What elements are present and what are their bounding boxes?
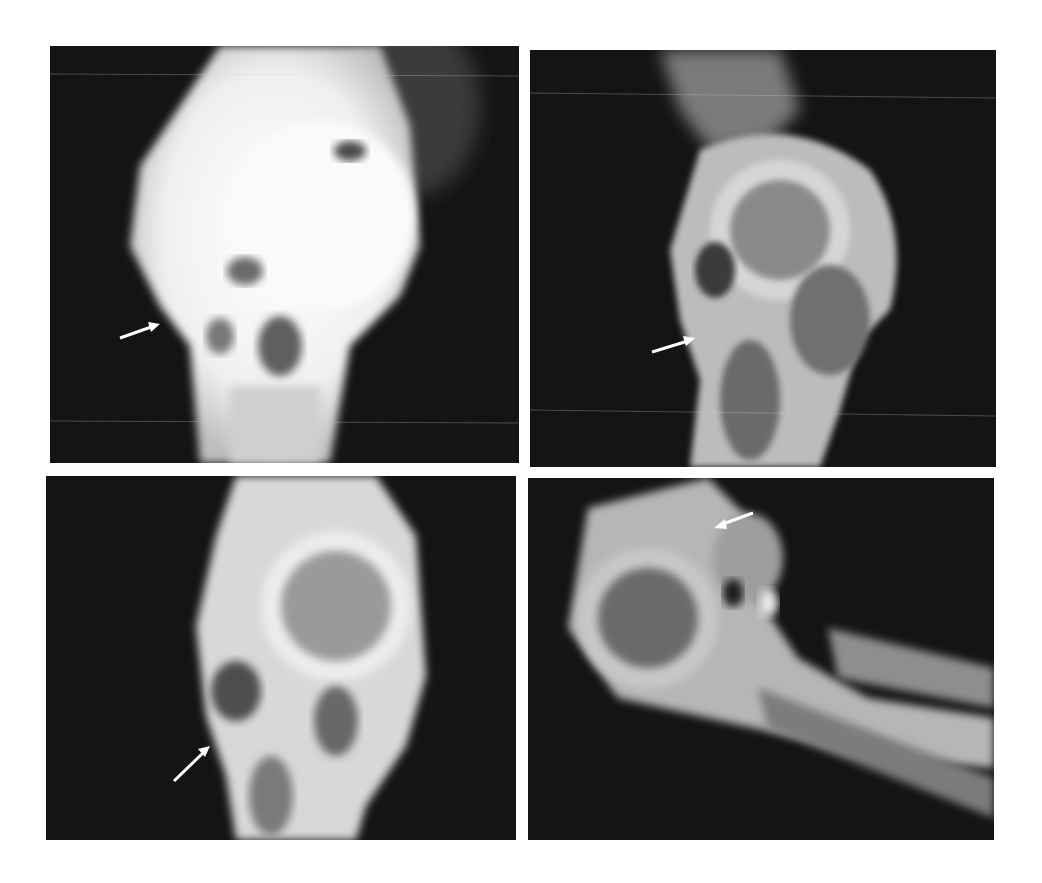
radiograph-panel-top-left	[50, 46, 519, 463]
radiograph-panel-top-right	[530, 50, 996, 467]
radiograph-image	[50, 46, 519, 463]
radiograph-panel-bottom-left	[46, 476, 516, 840]
radiograph-image	[530, 50, 996, 467]
radiograph-panel-bottom-right	[528, 478, 994, 840]
radiograph-image	[46, 476, 516, 840]
radiograph-image	[528, 478, 994, 840]
